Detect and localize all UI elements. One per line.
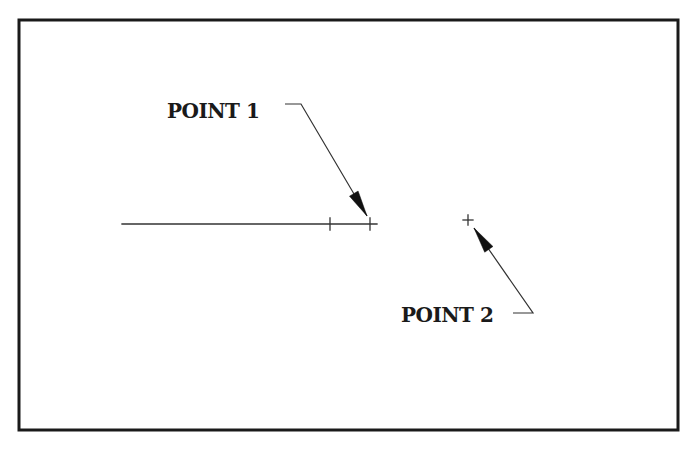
point-1-callout: POINT 1 bbox=[167, 99, 367, 216]
point-1-label: POINT 1 bbox=[167, 99, 259, 123]
point-2-callout: POINT 2 bbox=[401, 215, 533, 327]
point-1-arrow-icon bbox=[349, 191, 367, 216]
diagram-canvas: POINT 1 POINT 2 bbox=[0, 0, 689, 451]
point-2-label: POINT 2 bbox=[401, 303, 493, 327]
point-2-arrow-icon bbox=[474, 228, 493, 252]
drawing-frame bbox=[19, 20, 678, 430]
point-2-crosshair-icon bbox=[463, 215, 473, 225]
